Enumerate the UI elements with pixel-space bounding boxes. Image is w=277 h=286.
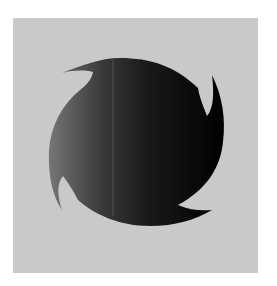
swirl-shape-image <box>0 0 277 286</box>
swirl-shape <box>49 58 224 226</box>
caption-cutoff <box>16 279 106 286</box>
